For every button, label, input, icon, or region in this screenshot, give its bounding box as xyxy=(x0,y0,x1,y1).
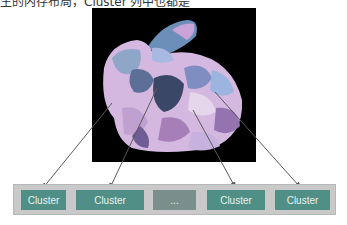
cluster-cell: Cluster xyxy=(275,190,330,210)
cluster-array-bar: Cluster Cluster ... Cluster Cluster xyxy=(13,184,336,215)
ellipsis-cell: ... xyxy=(153,190,196,210)
arrow-1 xyxy=(43,103,112,188)
cluster-cell: Cluster xyxy=(21,190,66,210)
arrow-3 xyxy=(193,110,235,187)
cluster-cell: Cluster xyxy=(76,190,144,210)
cluster-cell: Cluster xyxy=(207,190,265,210)
arrow-2 xyxy=(110,88,157,188)
